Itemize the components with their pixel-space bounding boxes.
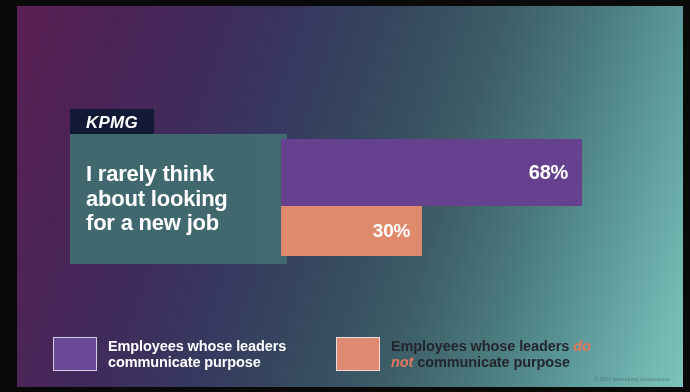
statement-box: I rarely think about looking for a new j… [70, 134, 287, 264]
legend-orange-line1-plain: Employees whose leaders [391, 338, 573, 354]
kpmg-logo: KPMG [70, 109, 154, 134]
statement-text: I rarely think about looking for a new j… [70, 162, 228, 237]
bar-orange-value: 30% [373, 220, 422, 242]
kpmg-logo-text: KPMG [86, 114, 138, 131]
footer-copyright: © 2023 www.kpmg.com/purpose [594, 376, 670, 382]
slide-frame: KPMG I rarely think about looking for a … [0, 0, 690, 392]
bar-orange: 30% [281, 206, 422, 256]
legend-swatch-purple [53, 337, 97, 371]
legend: Employees whose leaders communicate purp… [53, 337, 678, 379]
legend-orange-line2-plain: communicate purpose [413, 354, 570, 370]
legend-purple-line2: communicate purpose [108, 354, 261, 370]
legend-purple-line1: Employees whose leaders [108, 338, 286, 354]
legend-orange-emph-do: do [573, 338, 591, 354]
legend-item-do-not-communicate-purpose: Employees whose leaders donot communicat… [336, 337, 666, 371]
legend-item-communicate-purpose: Employees whose leaders communicate purp… [53, 337, 336, 371]
slide-canvas: KPMG I rarely think about looking for a … [17, 6, 683, 387]
legend-swatch-orange [336, 337, 380, 371]
legend-orange-emph-not: not [391, 354, 413, 370]
legend-label-purple: Employees whose leaders communicate purp… [108, 338, 286, 371]
bar-purple: 68% [281, 139, 582, 206]
bar-purple-value: 68% [529, 161, 582, 184]
legend-label-orange: Employees whose leaders donot communicat… [391, 338, 591, 371]
